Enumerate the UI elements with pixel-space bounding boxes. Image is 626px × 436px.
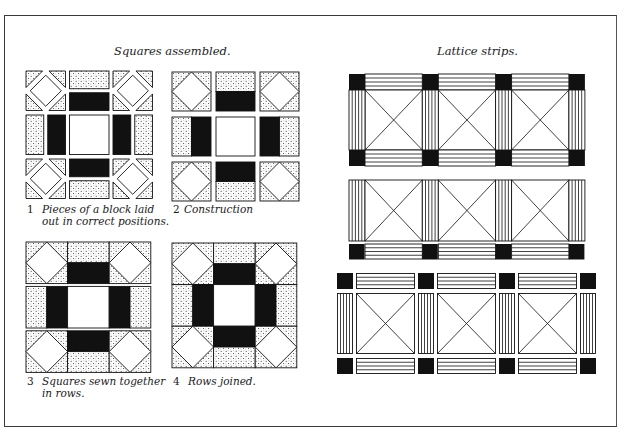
block-square-with-diagonals	[438, 90, 495, 150]
edge-unit-dotted-and-black	[26, 286, 68, 328]
block-square-with-diagonals	[438, 180, 495, 241]
corner-unit-square-in-square	[26, 242, 68, 284]
horizontal-lattice-strip	[357, 359, 415, 374]
dotted-rectangle	[214, 243, 256, 264]
cornerstone-black-square	[422, 74, 438, 90]
caption-text: Rows joined.	[188, 376, 256, 388]
figure-1-pieces-laid-out	[26, 71, 153, 199]
strip-outline	[496, 180, 512, 241]
cornerstone-black-square	[418, 273, 434, 289]
corner-unit-square-in-square	[109, 242, 151, 284]
dotted-rectangle	[214, 347, 256, 368]
black-rectangle	[192, 117, 212, 156]
strip-outline	[419, 294, 434, 354]
black-rectangle	[48, 115, 66, 155]
edge-unit-dotted-and-black	[68, 242, 110, 284]
caption-number: 2	[173, 204, 180, 216]
black-rectangle	[68, 331, 110, 352]
black-rectangle	[193, 285, 214, 327]
edge-unit-dotted-and-black	[260, 117, 299, 156]
caption-text: Squares sewn together in rows.	[42, 376, 165, 399]
vertical-lattice-strip	[349, 90, 365, 150]
strip-outline	[581, 294, 596, 354]
black-rectangle	[47, 286, 68, 328]
dotted-rectangle	[280, 117, 300, 156]
black-rectangle	[70, 159, 110, 177]
horizontal-lattice-strip	[438, 359, 496, 374]
strip-outline	[569, 180, 585, 241]
horizontal-lattice-strip	[438, 244, 495, 259]
vertical-lattice-strip	[569, 180, 585, 241]
vertical-lattice-strip	[419, 294, 434, 354]
corner-unit-square-in-square	[26, 71, 66, 111]
lattice-strip-2	[349, 180, 585, 260]
diagram-canvas: Squares assembled. Lattice strips. 1 Pie…	[0, 0, 626, 436]
vertical-lattice-strip	[581, 294, 596, 354]
figure-2-construction	[172, 72, 299, 201]
figure-4-rows-joined	[172, 243, 297, 368]
cornerstone-black-square	[349, 150, 365, 166]
corner-unit-square-in-square	[255, 243, 297, 285]
cornerstone-black-square	[496, 74, 512, 90]
horizontal-lattice-strip	[512, 74, 569, 90]
strip-outline	[496, 90, 512, 150]
horizontal-lattice-strip	[438, 74, 495, 90]
dotted-rectangle	[26, 286, 47, 328]
lattice-strip-3-exploded	[337, 273, 596, 374]
strip-outline	[349, 180, 365, 241]
corner-unit-square-in-square	[260, 162, 299, 201]
center-white-square	[68, 286, 110, 328]
cornerstone-black-square	[569, 74, 585, 90]
center-white-square	[216, 117, 255, 156]
cornerstone-black-square	[499, 273, 515, 289]
horizontal-lattice-strip	[365, 74, 422, 90]
horizontal-lattice-strip	[519, 359, 577, 374]
strip-outline	[569, 90, 585, 150]
dotted-rectangle	[172, 117, 192, 156]
black-rectangle	[109, 286, 130, 328]
lattice-strip-1	[349, 74, 585, 166]
edge-unit-dotted-and-black	[172, 285, 214, 327]
cornerstone-black-square	[337, 273, 353, 289]
dotted-rectangle	[68, 242, 110, 263]
cornerstone-black-square	[422, 244, 438, 260]
black-rectangle	[260, 117, 280, 156]
vertical-lattice-strip	[569, 90, 585, 150]
caption-line-2: out in correct positions.	[42, 216, 169, 228]
edge-unit-dotted-and-black	[216, 162, 255, 201]
dotted-rectangle	[276, 285, 297, 327]
cornerstone-black-square	[569, 244, 585, 260]
corner-unit-square-in-square	[26, 159, 66, 199]
cornerstone-black-square	[580, 358, 596, 374]
cornerstone-black-square	[418, 358, 434, 374]
white-diamond	[30, 75, 61, 106]
dotted-rectangle	[68, 352, 110, 373]
horizontal-lattice-strip	[519, 274, 577, 289]
dotted-rectangle	[216, 182, 255, 202]
white-diamond	[117, 75, 148, 106]
black-rectangle	[216, 92, 255, 112]
edge-unit-dotted-and-black	[26, 115, 66, 155]
cornerstone-black-square	[580, 273, 596, 289]
caption-line-1: Squares sewn together	[42, 376, 165, 388]
dotted-rectangle	[135, 115, 153, 155]
black-rectangle	[70, 93, 110, 111]
horizontal-lattice-strip	[438, 150, 495, 166]
cornerstone-black-square	[499, 358, 515, 374]
horizontal-lattice-strip	[438, 274, 496, 289]
dotted-rectangle	[172, 285, 193, 327]
edge-unit-dotted-and-black	[109, 286, 151, 328]
black-rectangle	[113, 115, 131, 155]
dotted-rectangle	[70, 181, 110, 199]
edge-unit-dotted-and-black	[70, 159, 110, 199]
cornerstone-black-square	[496, 150, 512, 166]
edge-unit-dotted-and-black	[172, 117, 211, 156]
horizontal-lattice-strip	[365, 150, 422, 166]
corner-unit-square-in-square	[113, 159, 153, 199]
corner-unit-square-in-square	[109, 331, 151, 373]
vertical-lattice-strip	[500, 294, 515, 354]
black-rectangle	[255, 285, 276, 327]
dotted-rectangle	[216, 72, 255, 92]
block-square-with-diagonals	[438, 294, 496, 354]
vertical-lattice-strip	[422, 90, 438, 150]
